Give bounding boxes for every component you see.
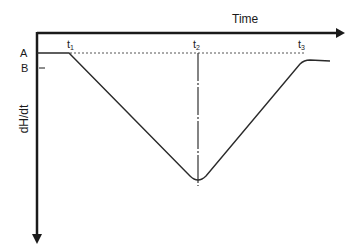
time-axis-label: Time bbox=[232, 12, 258, 26]
level-a-label: A bbox=[20, 48, 27, 59]
t2-marker-label: t2 bbox=[193, 39, 200, 51]
level-b-label: B bbox=[21, 63, 28, 74]
dhdt-curve bbox=[37, 53, 330, 180]
t3-marker-label: t3 bbox=[298, 39, 305, 51]
dhdt-axis-arrowhead bbox=[32, 234, 42, 244]
time-axis-arrowhead bbox=[336, 28, 345, 38]
dhdt-axis-label: dH/dt bbox=[17, 105, 31, 134]
diagram-canvas bbox=[0, 0, 361, 248]
t1-marker-label: t1 bbox=[67, 39, 74, 51]
